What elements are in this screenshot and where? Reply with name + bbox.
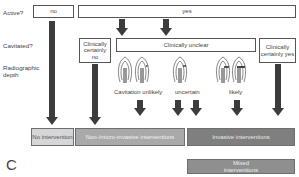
tooth-icon <box>135 57 148 83</box>
panel-letter: C <box>6 156 17 173</box>
tooth-icon <box>173 57 186 83</box>
clinically-certainly-no-box: Clinically certainly no <box>79 38 111 63</box>
mixed-interventions-box: Mixed interventions <box>187 159 295 174</box>
non-micro-invasive-text: Non-/micro-invasive interventions <box>86 134 175 141</box>
non-micro-invasive-box: Non-/micro-invasive interventions <box>75 128 185 146</box>
radiographic-teeth-icons <box>117 54 257 86</box>
invasive-interventions-text: Invasive interventions <box>212 134 270 141</box>
arrow-yes-to-unclear-left-shaft <box>119 19 125 28</box>
radiographic-row-label: Radiographic depth <box>3 64 39 78</box>
active-yes-box: yes <box>78 5 296 18</box>
clinically-unclear-box: Clinically unclear <box>116 38 256 52</box>
arrow-down-icon <box>89 117 101 125</box>
active-yes-text: yes <box>182 8 191 15</box>
arrow-down-icon <box>231 108 243 116</box>
arrow-certainly-no-shaft <box>92 64 98 117</box>
cavitated-row-label: Cavitated? <box>3 42 33 49</box>
no-intervention-box: No intervention <box>31 128 74 146</box>
arrow-down-icon <box>160 28 172 36</box>
arrow-down-icon <box>134 108 146 116</box>
clinically-certainly-yes-text: Clinically certainly yes <box>260 44 295 57</box>
arrow-down-icon <box>272 108 284 116</box>
clinically-unclear-text: Clinically unclear <box>163 42 208 49</box>
active-row-label: Active? <box>3 9 23 16</box>
no-intervention-text: No intervention <box>32 134 72 141</box>
invasive-interventions-box: Invasive interventions <box>187 128 295 146</box>
likely-label: likely <box>229 89 242 95</box>
tooth-icon <box>232 57 245 83</box>
arrow-down-icon <box>172 108 184 116</box>
radiographic-label-line2: depth <box>3 71 39 78</box>
tooth-icon <box>216 57 229 83</box>
arrow-down-icon <box>46 117 58 125</box>
mixed-interventions-text: Mixed interventions <box>218 160 264 173</box>
arrow-yes-to-unclear-right-shaft <box>163 19 169 28</box>
tooth-icon <box>118 57 131 83</box>
radiographic-label-line1: Radiographic <box>3 64 39 71</box>
uncertain-label: uncertain <box>175 89 200 95</box>
arrow-certainly-yes-shaft <box>275 64 281 109</box>
cavitation-unlikely-label: Cavitation unlikely <box>114 89 162 95</box>
active-no-box: no <box>33 5 74 18</box>
arrow-no-shaft <box>49 21 55 117</box>
clinically-certainly-yes-box: Clinically certainly yes <box>259 38 296 63</box>
active-no-text: no <box>50 8 57 15</box>
arrow-down-icon <box>116 28 128 36</box>
clinically-certainly-no-text: Clinically certainly no <box>80 41 110 61</box>
arrow-down-icon <box>190 108 202 116</box>
